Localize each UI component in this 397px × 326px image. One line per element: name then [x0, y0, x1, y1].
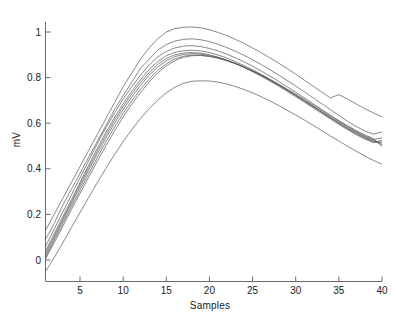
y-axis-ticks: 00.20.40.60.81 — [27, 27, 50, 266]
data-series-line — [46, 39, 383, 240]
x-tick-label: 15 — [161, 285, 173, 296]
chart-figure: 510152025303540 00.20.40.60.81 mV Sample… — [0, 0, 397, 326]
x-tick-label: 10 — [118, 285, 130, 296]
y-tick-label: 0.8 — [27, 72, 41, 83]
x-tick-label: 40 — [376, 285, 388, 296]
x-tick-label: 25 — [247, 285, 259, 296]
data-series-line — [46, 46, 383, 247]
axes — [46, 22, 383, 282]
y-tick-label: 0.2 — [27, 209, 41, 220]
line-chart-plot: 510152025303540 00.20.40.60.81 — [0, 0, 397, 326]
data-series-line — [46, 50, 383, 251]
x-tick-label: 5 — [77, 285, 83, 296]
y-tick-label: 1 — [35, 27, 41, 38]
x-axis-ticks: 510152025303540 — [77, 277, 388, 297]
x-tick-label: 35 — [333, 285, 345, 296]
data-series-line — [46, 81, 383, 272]
data-series-line — [46, 53, 383, 254]
x-axis-label: Samples — [170, 300, 250, 311]
x-tick-label: 30 — [290, 285, 302, 296]
data-series-line — [46, 54, 383, 256]
x-tick-label: 20 — [204, 285, 216, 296]
y-tick-label: 0.6 — [27, 118, 41, 129]
y-tick-label: 0 — [35, 255, 41, 266]
y-axis-label: mV — [11, 127, 22, 153]
y-tick-label: 0.4 — [27, 163, 41, 174]
data-series-group — [46, 27, 383, 271]
